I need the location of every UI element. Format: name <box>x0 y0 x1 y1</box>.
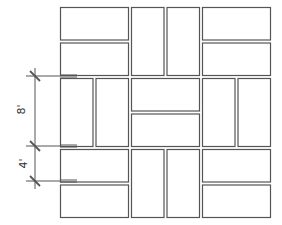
paving-pattern-diagram <box>0 0 282 225</box>
dimension-label-8ft: 8' <box>15 104 28 114</box>
brick-vertical <box>238 79 271 147</box>
brick-horizontal <box>61 43 129 76</box>
brick-vertical <box>132 8 165 76</box>
brick-horizontal <box>132 114 200 147</box>
brick-vertical <box>132 150 165 218</box>
brick-horizontal <box>203 150 271 183</box>
brick-horizontal <box>61 8 129 41</box>
brick-horizontal <box>203 185 271 218</box>
brick-vertical <box>61 79 94 147</box>
brick-vertical <box>96 79 129 147</box>
brick-horizontal <box>61 185 129 218</box>
dimension-lines <box>26 68 77 189</box>
brick-vertical <box>167 8 200 76</box>
brick-horizontal <box>203 8 271 41</box>
basketweave-pattern <box>61 8 271 218</box>
dimension-label-4ft: 4' <box>17 158 30 168</box>
brick-vertical <box>203 79 236 147</box>
brick-horizontal <box>132 79 200 112</box>
brick-horizontal <box>203 43 271 76</box>
brick-vertical <box>167 150 200 218</box>
brick-horizontal <box>61 150 129 183</box>
